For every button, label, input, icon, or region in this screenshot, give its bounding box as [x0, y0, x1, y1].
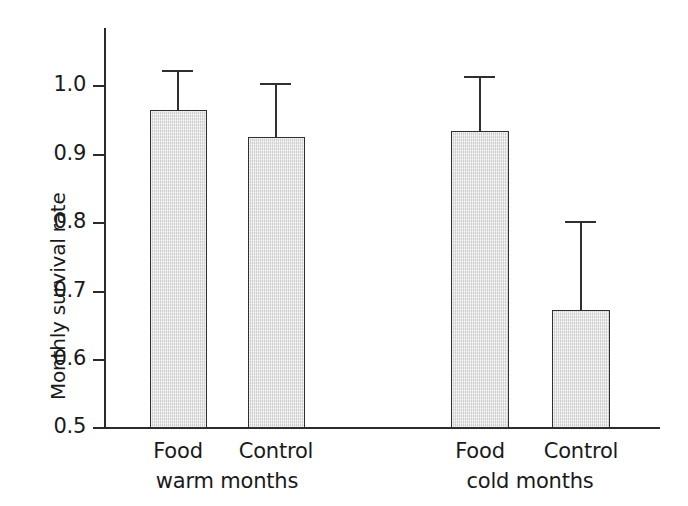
y-tick-0-5 — [93, 427, 104, 429]
x-label-cold-food: Food — [430, 440, 530, 462]
bar-warm-control — [248, 137, 305, 428]
error-bar-stem-cold-control — [580, 221, 582, 310]
x-label-cold-control: Control — [531, 440, 631, 462]
bar-cold-food — [451, 131, 509, 428]
y-tick-1-0 — [93, 85, 104, 87]
y-tick-label-0-6: 0.6 — [30, 348, 86, 369]
x-label-warm-food: Food — [128, 440, 228, 462]
y-tick-0-7 — [93, 291, 104, 293]
error-bar-cap-warm-control — [260, 83, 291, 85]
bar-warm-food — [150, 110, 207, 428]
error-bar-cap-warm-food — [162, 70, 193, 72]
group-label-warm-months: warm months — [127, 470, 327, 492]
error-bar-stem-warm-control — [275, 83, 277, 137]
y-axis-title: Monthly survival rate — [40, 0, 76, 400]
y-axis-line — [104, 28, 106, 429]
error-bar-cap-cold-control — [565, 221, 596, 223]
y-tick-label-0-5: 0.5 — [30, 416, 86, 437]
bar-chart-figure: Monthly survival rate 1.0 0.9 0.8 0.7 0.… — [0, 0, 688, 506]
bar-cold-control — [552, 310, 610, 428]
y-tick-0-6 — [93, 359, 104, 361]
error-bar-stem-cold-food — [479, 76, 481, 131]
y-tick-label-0-8: 0.8 — [30, 211, 86, 232]
error-bar-stem-warm-food — [177, 70, 179, 110]
y-tick-label-1-0: 1.0 — [30, 74, 86, 95]
y-tick-label-0-7: 0.7 — [30, 280, 86, 301]
y-tick-0-9 — [93, 154, 104, 156]
y-tick-label-0-9: 0.9 — [30, 143, 86, 164]
y-tick-0-8 — [93, 222, 104, 224]
error-bar-cap-cold-food — [464, 76, 495, 78]
x-label-warm-control: Control — [226, 440, 326, 462]
group-label-cold-months: cold months — [430, 470, 630, 492]
